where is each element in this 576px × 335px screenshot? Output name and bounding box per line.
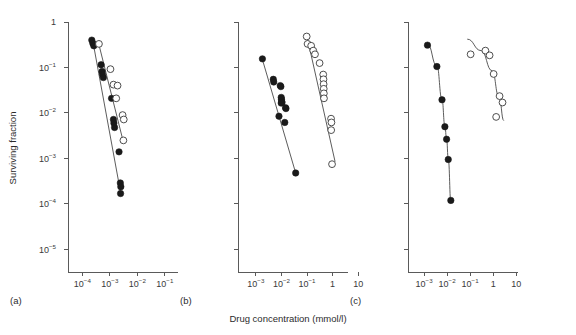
data-point-open (493, 114, 500, 121)
data-point-open (96, 41, 103, 48)
x-tick-label-3: 10−1 (156, 277, 174, 289)
data-point-filled (111, 124, 117, 130)
data-point-filled (443, 136, 449, 142)
x-tick-label-0: 10−4 (74, 277, 92, 289)
panel-label: (c) (350, 295, 361, 306)
y-tick-label-5: 10−5 (39, 243, 57, 255)
data-point-filled (100, 74, 106, 80)
data-point-filled (98, 62, 104, 68)
axis-frame (68, 22, 178, 272)
x-tick-label-1: 10−2 (439, 277, 457, 289)
data-point-filled (442, 123, 448, 129)
y-tick-label-2: 10−2 (39, 106, 57, 118)
data-point-filled (448, 197, 454, 203)
data-point-open (496, 93, 503, 100)
data-point-filled (116, 149, 122, 155)
data-point-open (312, 51, 319, 58)
data-point-open (303, 33, 310, 40)
data-point-open (321, 95, 328, 102)
data-point-filled (278, 83, 284, 89)
y-axis-title: Surviving fraction (7, 112, 18, 185)
fit-line (93, 41, 121, 192)
y-tick-label-4: 10−4 (39, 197, 57, 209)
data-point-open (120, 137, 127, 144)
data-point-open (467, 51, 474, 58)
data-point-filled (276, 113, 282, 119)
axis-frame (408, 22, 518, 272)
x-tick-label-3: 1 (491, 279, 496, 289)
data-point-filled (282, 119, 288, 125)
data-point-filled (434, 63, 440, 69)
data-point-filled (292, 170, 298, 176)
data-point-open (329, 161, 336, 168)
panel-b: 10−310−210−1110(b) (180, 22, 363, 306)
data-point-filled (424, 42, 430, 48)
y-tick-label-1: 10−1 (39, 61, 57, 73)
x-tick-label-3: 1 (330, 279, 335, 289)
panel-c: 10−310−210−1110(c) (350, 22, 521, 306)
data-point-filled (283, 105, 289, 111)
data-point-open (316, 60, 323, 67)
y-tick-label-3: 10−3 (39, 152, 57, 164)
x-tick-label-4: 10 (511, 279, 521, 289)
x-tick-label-1: 10−2 (273, 277, 291, 289)
figure-root: Surviving fraction 110−110−210−310−410−5… (0, 0, 576, 335)
x-tick-label-4: 10 (353, 279, 363, 289)
panel-a: 10−410−310−210−1(a) (10, 22, 178, 306)
panel-label: (b) (180, 295, 192, 306)
data-point-filled (439, 97, 445, 103)
data-point-open (499, 99, 506, 106)
x-tick-label-1: 10−3 (101, 277, 119, 289)
data-point-filled (271, 79, 277, 85)
data-point-open (107, 66, 114, 73)
data-point-filled (445, 156, 451, 162)
data-point-open (328, 119, 335, 126)
x-axis-title: Drug concentration (mmol/l) (229, 313, 346, 324)
x-tick-label-2: 10−1 (462, 277, 480, 289)
y-tick-labels: 110−110−210−310−410−5 (39, 17, 57, 254)
x-tick-label-0: 10−3 (416, 277, 434, 289)
x-tick-label-2: 10−1 (298, 277, 316, 289)
data-point-filled (118, 183, 124, 189)
data-point-filled (117, 190, 123, 196)
panel-label: (a) (10, 295, 22, 306)
x-tick-label-0: 10−3 (247, 277, 265, 289)
x-tick-label-2: 10−2 (129, 277, 147, 289)
data-point-open (490, 71, 497, 78)
y-tick-label-0: 1 (51, 17, 56, 27)
data-point-open (114, 82, 121, 89)
data-point-filled (259, 56, 265, 62)
data-point-open (120, 116, 127, 123)
data-point-open (113, 95, 120, 102)
figure-canvas: Surviving fraction 110−110−210−310−410−5… (0, 0, 576, 335)
data-point-open (486, 52, 493, 59)
data-point-open (328, 127, 335, 134)
